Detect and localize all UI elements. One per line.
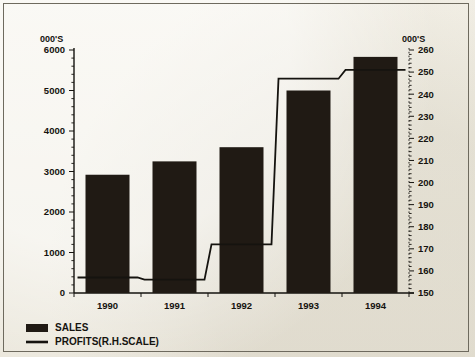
x-label-1994: 1994 <box>365 300 387 311</box>
left-tick-label: 2000 <box>44 206 65 217</box>
right-tick-label: 210 <box>418 155 434 166</box>
right-tick-label: 260 <box>418 44 434 55</box>
right-axis-unit-label: 000'S <box>402 34 425 44</box>
right-tick-label: 160 <box>418 265 434 276</box>
right-tick-label: 190 <box>418 199 434 210</box>
left-tick-label: 3000 <box>44 166 65 177</box>
right-tick-label: 170 <box>418 243 434 254</box>
right-tick-label: 220 <box>418 133 434 144</box>
x-label-1991: 1991 <box>164 300 186 311</box>
left-tick-label: 0 <box>60 287 65 298</box>
x-label-1992: 1992 <box>231 300 252 311</box>
left-axis-unit-label: 000'S <box>40 34 63 44</box>
bar-sales-1992 <box>220 147 264 293</box>
left-tick-label: 5000 <box>44 85 65 96</box>
legend-swatch-sales <box>26 324 48 332</box>
x-tick-labels: 19901991199219931994 <box>97 300 387 311</box>
right-y-axis: 150160170180190200210220230240250260 <box>409 44 434 298</box>
bar-sales-1993 <box>287 91 331 294</box>
right-tick-label: 250 <box>418 66 434 77</box>
x-label-1990: 1990 <box>97 300 118 311</box>
right-tick-label: 200 <box>418 177 434 188</box>
left-y-axis: 0100020003000400050006000 <box>44 44 74 298</box>
right-tick-label: 230 <box>418 111 434 122</box>
sales-profits-chart: 000'S 000'S 0100020003000400050006000 15… <box>0 0 475 357</box>
legend-label-sales: SALES <box>55 322 89 333</box>
bar-sales-1990 <box>86 175 130 293</box>
right-tick-label: 180 <box>418 221 434 232</box>
x-axis <box>74 293 414 297</box>
x-label-1993: 1993 <box>298 300 319 311</box>
bar-sales-1991 <box>153 161 197 293</box>
bar-sales-1994 <box>354 57 398 293</box>
left-tick-label: 1000 <box>44 247 65 258</box>
legend-label-profits: PROFITS(R.H.SCALE) <box>55 336 159 347</box>
left-tick-label: 6000 <box>44 44 65 55</box>
left-tick-label: 4000 <box>44 125 65 136</box>
right-tick-label: 150 <box>418 287 434 298</box>
right-tick-label: 240 <box>418 89 434 100</box>
bar-series-sales <box>86 57 398 293</box>
chart-legend: SALES PROFITS(R.H.SCALE) <box>26 322 159 347</box>
